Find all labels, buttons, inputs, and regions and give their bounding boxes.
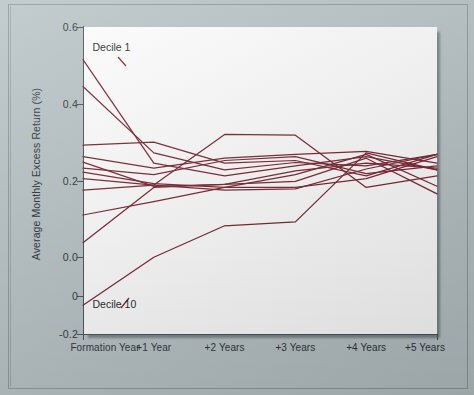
annotation-label: Decile 10	[93, 298, 137, 310]
series-line	[83, 153, 437, 305]
annotation-leader	[118, 57, 126, 66]
line-chart: 0.60.40.20.00-0.2 Formation Year+1 Year+…	[0, 0, 474, 395]
series-lines	[0, 0, 474, 395]
figure-page: 0.60.40.20.00-0.2 Formation Year+1 Year+…	[0, 0, 474, 395]
annotation-label: Decile 1	[93, 41, 131, 53]
